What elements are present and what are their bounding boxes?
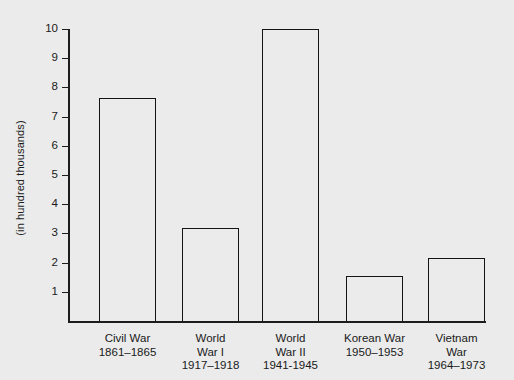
- y-axis-line: [68, 29, 70, 321]
- bar: [182, 228, 239, 321]
- category-label-line: Vietnam: [397, 332, 514, 346]
- y-axis-title-label: (in hundred thousands): [14, 98, 26, 258]
- y-axis-tick-label: 1: [36, 286, 58, 298]
- y-axis-tick-label: 5: [36, 169, 58, 181]
- y-axis-tick-label: 7: [36, 111, 58, 123]
- y-axis-tick-label: 2: [36, 257, 58, 269]
- y-axis-tick-label: 3: [36, 227, 58, 239]
- bar: [428, 258, 485, 321]
- category-label-line: War: [397, 346, 514, 360]
- bar: [346, 276, 403, 321]
- category-label-line: 1941-1945: [231, 359, 351, 373]
- y-axis-title: (in hundred thousands): [14, 0, 26, 98]
- y-axis-tick-label: 9: [36, 52, 58, 64]
- y-axis-tick-label: 8: [36, 81, 58, 93]
- y-axis-tick-label: 10: [36, 23, 58, 35]
- bar: [262, 29, 319, 321]
- x-axis-line: [68, 321, 486, 323]
- category-label-line: 1964–1973: [397, 359, 514, 373]
- y-axis-tick-label: 6: [36, 140, 58, 152]
- x-axis-category-label: VietnamWar1964–1973: [397, 332, 514, 373]
- bar-chart: (in hundred thousands) 12345678910 Civil…: [0, 0, 514, 380]
- y-axis-tick-label: 4: [36, 198, 58, 210]
- bar: [99, 98, 156, 321]
